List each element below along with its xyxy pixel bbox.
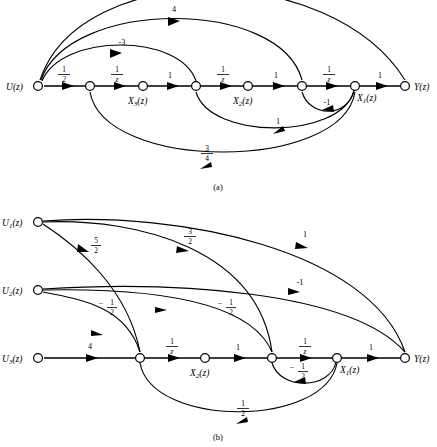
gain-label-b-minus1: -1	[297, 278, 304, 287]
caption-a: (a)	[213, 182, 223, 192]
gain-b-32-num: 3	[188, 227, 192, 236]
gain-a-n2-x2: 1 z	[217, 65, 229, 84]
node-b-nb1[interactable]	[136, 354, 145, 363]
gain-b-mh2-den: 2	[229, 308, 233, 317]
node-label-u2: U2(z)	[2, 286, 22, 298]
svg-text:Y(z): Y(z)	[414, 82, 429, 93]
node-u2[interactable]	[34, 286, 43, 295]
svg-text:U1(z): U1(z)	[2, 218, 22, 230]
gain-a-x1-y: 1	[378, 71, 382, 80]
gain-b-2-num: 1	[170, 337, 174, 346]
arc-x1-to-n3: -1	[302, 90, 354, 112]
gain-b-52-den: 2	[94, 246, 98, 255]
gain-b-fbm-sign: −	[290, 363, 295, 372]
gain-label-b-u1-y: 1	[303, 230, 307, 239]
main-chain-b	[44, 354, 405, 362]
svg-text:X1(z): X1(z)	[339, 365, 359, 377]
node-label-x2: X2(z)	[232, 96, 252, 108]
gain-a-1-num: 1	[62, 65, 66, 74]
svg-text:X2(z): X2(z)	[232, 96, 252, 108]
gain-a-n1-x3: 1 z	[111, 65, 123, 84]
gain-b-x2-nb2: 1	[236, 343, 240, 352]
gain-b-nb1-x2: 1 z	[166, 337, 178, 356]
node-x1[interactable]	[351, 82, 360, 91]
gain-a-x3-n2: 1	[168, 71, 172, 80]
gain-a-4-den: z	[221, 75, 225, 84]
gain-b-half-den: 2	[241, 409, 245, 418]
node-label-u1: U1(z)	[2, 218, 22, 230]
figure-canvas: 4 -3 1 2 1 z 1	[0, 0, 437, 447]
gain-b-fbm-num: 1	[301, 362, 305, 371]
arc-u-to-n3: 4	[41, 5, 302, 80]
node-yb[interactable]	[401, 354, 410, 363]
gain-a-2-num: 1	[115, 65, 119, 74]
gain-label-a-minus3: -3	[119, 38, 126, 47]
node-label-x3: X3(z)	[127, 96, 147, 108]
gain-a-n3-x1: 1 z	[323, 65, 335, 84]
gain-b-mh2-num: 1	[229, 298, 233, 307]
gain-b-mh1-num: 1	[110, 298, 114, 307]
gain-label-a-1fb: 1	[276, 117, 280, 126]
node-label-u: U(z)	[6, 82, 23, 93]
gain-label-a-minus1: -1	[324, 98, 331, 107]
node-a-n2[interactable]	[192, 82, 201, 91]
gain-a-fb3-den: 4	[205, 154, 209, 163]
arc-b-x1-to-nb1: 1 2	[140, 363, 337, 424]
gain-label-b-minus-half-left: 1 2 −	[99, 298, 117, 317]
caption-b: (b)	[213, 432, 223, 442]
node-label-x1b: X1(z)	[339, 365, 359, 377]
gain-a-x2-n3: 1	[274, 71, 278, 80]
svg-text:X1(z): X1(z)	[356, 93, 376, 105]
node-x2[interactable]	[244, 82, 253, 91]
node-b-nb2[interactable]	[268, 354, 277, 363]
gain-label-b-minus-half-mid: 1 2 −	[218, 298, 236, 317]
gain-b-x1-y: 1	[369, 343, 373, 352]
gain-label-b-five-halves: 5 2	[91, 236, 101, 255]
node-label-x1: X1(z)	[356, 93, 376, 105]
svg-text:U2(z): U2(z)	[2, 286, 22, 298]
gain-b-nb2-x1: 1 z	[299, 337, 311, 356]
node-x3[interactable]	[139, 82, 148, 91]
gain-label-b-half: 1 2	[237, 399, 249, 418]
gain-label-a-4: 4	[172, 5, 176, 14]
gain-a-6-den: z	[327, 75, 331, 84]
arc-b-x1-to-nb2: 1 2 −	[272, 362, 336, 384]
gain-b-32-den: 2	[188, 237, 192, 246]
gain-b-fbm-den: 2	[301, 372, 305, 381]
node-u1[interactable]	[34, 218, 43, 227]
svg-text:X3(z): X3(z)	[127, 96, 147, 108]
gain-a-fb3-num: 3	[205, 144, 209, 153]
gain-b-2-den: z	[170, 347, 174, 356]
gain-b-4-num: 1	[303, 337, 307, 346]
signal-flow-graph-figure: 4 -3 1 2 1 z 1	[0, 0, 437, 447]
node-x2b[interactable]	[201, 354, 210, 363]
gain-b-mh1-sign: −	[99, 299, 104, 308]
gain-b-mh1-den: 2	[110, 308, 114, 317]
panel-b: 1 3 2 5 2 -1	[2, 218, 429, 442]
node-label-x2b: X2(z)	[189, 368, 209, 380]
svg-text:X2(z): X2(z)	[189, 368, 209, 380]
gain-label-b-three-halves: 3 2	[184, 227, 196, 246]
gain-label-a-three-quarters: 3 4	[201, 144, 213, 163]
gain-a-1-den: 2	[62, 75, 66, 84]
gain-label-b-fb-minus-half: 1 2 −	[290, 362, 308, 381]
gain-b-mh2-sign: −	[218, 299, 223, 308]
panel-a: 4 -3 1 2 1 z 1	[6, 0, 429, 192]
gain-b-u3-nb1: 4	[88, 342, 92, 351]
node-x1b[interactable]	[333, 354, 342, 363]
node-a-n1[interactable]	[86, 82, 95, 91]
svg-text:Y(z): Y(z)	[414, 354, 429, 365]
gain-a-u-n1: 1 2	[58, 65, 70, 84]
node-label-u3: U3(z)	[2, 354, 22, 366]
node-a-n3[interactable]	[298, 82, 307, 91]
gain-a-4-num: 1	[221, 65, 225, 74]
gain-a-2-den: z	[115, 75, 119, 84]
gain-b-half-num: 1	[241, 399, 245, 408]
node-u3[interactable]	[34, 354, 43, 363]
node-label-y: Y(z)	[414, 82, 429, 93]
node-u[interactable]	[34, 82, 43, 91]
node-y[interactable]	[401, 82, 410, 91]
gain-a-6-num: 1	[327, 65, 331, 74]
arc-u2-to-y: -1	[43, 278, 405, 352]
gain-b-52-num: 5	[94, 236, 98, 245]
